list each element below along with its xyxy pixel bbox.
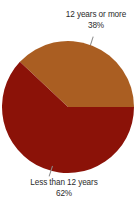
slice-label-text-bottom: Less than 12 years xyxy=(8,177,120,188)
pie-graphic xyxy=(1,40,135,174)
slice-label-text-top: 12 years or more xyxy=(52,9,140,20)
slice-value-text-top: 38% xyxy=(52,20,140,31)
slice-label-less-than-12-years: Less than 12 years 62% xyxy=(8,177,120,199)
slice-label-12-years-or-more: 12 years or more 38% xyxy=(52,9,140,31)
pie-svg xyxy=(1,40,135,174)
pie-chart-figure: 12 years or more 38% Less than 12 years … xyxy=(0,0,140,206)
slice-value-text-bottom: 62% xyxy=(8,188,120,199)
